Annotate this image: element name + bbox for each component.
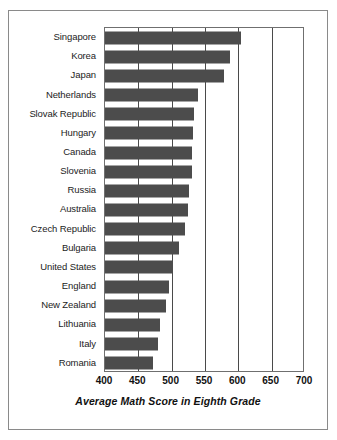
- x-tick-label-650: 650: [262, 375, 279, 386]
- bar-row: [105, 105, 303, 124]
- bar-row: [105, 162, 303, 181]
- chart-figure: SingaporeKoreaJapanNetherlandsSlovak Rep…: [8, 10, 328, 430]
- bar-row: [105, 85, 303, 104]
- bar-hungary[interactable]: [105, 127, 193, 140]
- bar-row: [105, 28, 303, 47]
- bar-row: [105, 296, 303, 315]
- bar-row: [105, 354, 303, 373]
- x-tick-label-500: 500: [162, 375, 179, 386]
- bar-row: [105, 258, 303, 277]
- bar-row: [105, 143, 303, 162]
- x-tick-label-550: 550: [196, 375, 213, 386]
- bar-singapore[interactable]: [105, 31, 241, 44]
- y-tick-label-singapore: Singapore: [9, 27, 101, 46]
- x-tick-label-400: 400: [96, 375, 113, 386]
- y-tick-label-slovenia: Slovenia: [9, 161, 101, 180]
- y-tick-label-italy: Italy: [9, 334, 101, 353]
- bar-row: [105, 315, 303, 334]
- plot-area: [104, 27, 304, 372]
- bar-row: [105, 124, 303, 143]
- y-tick-label-korea: Korea: [9, 46, 101, 65]
- bar-italy[interactable]: [105, 338, 158, 351]
- bar-england[interactable]: [105, 280, 169, 293]
- bar-row: [105, 200, 303, 219]
- bar-romania[interactable]: [105, 357, 153, 370]
- y-tick-label-australia: Australia: [9, 199, 101, 218]
- bar-canada[interactable]: [105, 146, 192, 159]
- x-axis-title: Average Math Score in Eighth Grade: [9, 395, 327, 407]
- y-tick-label-netherlands: Netherlands: [9, 84, 101, 103]
- y-tick-label-romania: Romania: [9, 353, 101, 372]
- bar-bulgaria[interactable]: [105, 242, 179, 255]
- y-tick-label-hungary: Hungary: [9, 123, 101, 142]
- x-tick-label-700: 700: [296, 375, 313, 386]
- y-axis-category-labels: SingaporeKoreaJapanNetherlandsSlovak Rep…: [9, 27, 101, 372]
- y-tick-label-new-zealand: New Zealand: [9, 295, 101, 314]
- bar-russia[interactable]: [105, 184, 189, 197]
- y-tick-label-england: England: [9, 276, 101, 295]
- y-tick-label-czech-republic: Czech Republic: [9, 219, 101, 238]
- y-tick-label-slovak-republic: Slovak Republic: [9, 104, 101, 123]
- bar-row: [105, 220, 303, 239]
- x-axis-tick-labels: 400450500550600650700: [104, 375, 304, 391]
- bar-japan[interactable]: [105, 69, 224, 82]
- bar-korea[interactable]: [105, 50, 230, 63]
- bar-slovak-republic[interactable]: [105, 108, 194, 121]
- bar-lithuania[interactable]: [105, 318, 160, 331]
- bar-row: [105, 47, 303, 66]
- bar-australia[interactable]: [105, 203, 188, 216]
- bar-united-states[interactable]: [105, 261, 173, 274]
- bar-row: [105, 66, 303, 85]
- bar-czech-republic[interactable]: [105, 223, 185, 236]
- y-tick-label-japan: Japan: [9, 65, 101, 84]
- bar-row: [105, 335, 303, 354]
- y-tick-label-lithuania: Lithuania: [9, 314, 101, 333]
- bar-row: [105, 277, 303, 296]
- y-tick-label-united-states: United States: [9, 257, 101, 276]
- x-tick-label-450: 450: [129, 375, 146, 386]
- y-tick-label-bulgaria: Bulgaria: [9, 238, 101, 257]
- y-tick-label-russia: Russia: [9, 180, 101, 199]
- bar-new-zealand[interactable]: [105, 299, 166, 312]
- bar-netherlands[interactable]: [105, 89, 198, 102]
- x-tick-label-600: 600: [229, 375, 246, 386]
- y-tick-label-canada: Canada: [9, 142, 101, 161]
- bar-row: [105, 239, 303, 258]
- bar-series: [105, 28, 303, 371]
- bar-slovenia[interactable]: [105, 165, 192, 178]
- bar-row: [105, 181, 303, 200]
